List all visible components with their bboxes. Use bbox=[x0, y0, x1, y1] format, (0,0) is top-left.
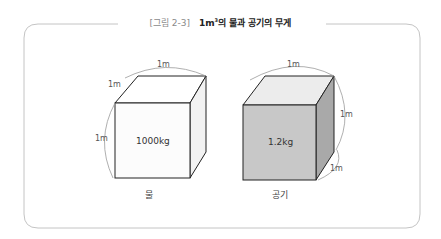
air-dim-label-width: 1m bbox=[287, 60, 300, 69]
water-dim-label-depth: 1m bbox=[108, 80, 121, 89]
water-dim-label-width: 1m bbox=[157, 60, 170, 69]
air-caption: 공기 bbox=[272, 188, 288, 201]
air-dim-label-height: 1m bbox=[340, 110, 353, 119]
water-caption: 물 bbox=[145, 188, 153, 201]
title-suffix: 의 물과 공기의 무게 bbox=[218, 18, 291, 28]
air-dim-label-depth: 1m bbox=[330, 164, 343, 173]
water-weight: 1000kg bbox=[136, 136, 170, 146]
air-cube bbox=[243, 66, 345, 180]
air-weight: 1.2kg bbox=[268, 137, 293, 147]
figure-title-text: 1m3의 물과 공기의 무게 bbox=[199, 18, 292, 28]
figure-title: [그림 2-3] 1m3의 물과 공기의 무게 bbox=[0, 16, 441, 29]
frame-border bbox=[24, 24, 420, 228]
title-prefix: 1m bbox=[199, 18, 215, 28]
figure-canvas bbox=[0, 0, 441, 239]
water-dim-label-height: 1m bbox=[95, 134, 108, 143]
figure-number: [그림 2-3] bbox=[150, 18, 191, 28]
